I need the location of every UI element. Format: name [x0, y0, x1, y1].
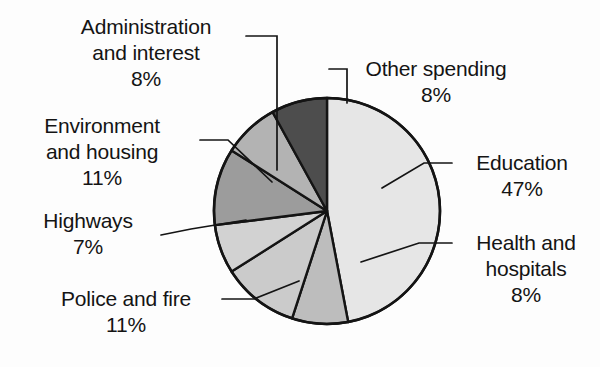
label-highways-line1: Highways — [15, 208, 161, 234]
label-education: Education 47% — [458, 150, 586, 202]
label-environment-percent: 11% — [4, 165, 200, 191]
label-highways-percent: 7% — [15, 234, 161, 260]
label-other-spending-percent: 8% — [340, 82, 532, 108]
label-police-percent: 11% — [30, 312, 222, 338]
label-administration-percent: 8% — [46, 66, 246, 92]
pie-slice-education[interactable] — [327, 98, 440, 322]
label-administration-line1: Administration — [46, 14, 246, 40]
label-health-percent: 8% — [456, 282, 596, 308]
label-administration-line2: and interest — [46, 40, 246, 66]
label-environment-line1: Environment — [4, 113, 200, 139]
label-education-line1: Education — [458, 150, 586, 176]
label-highways: Highways 7% — [15, 208, 161, 260]
pie-chart-figure: Administration and interest 8% Environme… — [0, 0, 600, 367]
label-environment: Environment and housing 11% — [4, 113, 200, 191]
label-other-spending-line1: Other spending — [340, 56, 532, 82]
label-administration: Administration and interest 8% — [46, 14, 246, 92]
label-education-percent: 47% — [458, 176, 586, 202]
label-health-line1: Health and — [456, 230, 596, 256]
label-environment-line2: and housing — [4, 139, 200, 165]
label-police: Police and fire 11% — [30, 286, 222, 338]
label-health-line2: hospitals — [456, 256, 596, 282]
label-police-line1: Police and fire — [30, 286, 222, 312]
label-other-spending: Other spending 8% — [340, 56, 532, 108]
label-health: Health and hospitals 8% — [456, 230, 596, 308]
